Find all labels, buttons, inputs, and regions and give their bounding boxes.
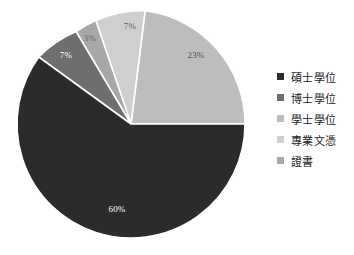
pie-svg: 23% 7% 3% 7% 60%	[0, 0, 258, 255]
pie-chart-figure: 23% 7% 3% 7% 60% 碩士學位 博士學位 學士學位 專業文憑 證書	[0, 0, 354, 255]
slice-label-doctorate: 7%	[60, 50, 73, 60]
legend-item-master[interactable]: 碩士學位	[277, 66, 354, 87]
legend-item-certificate[interactable]: 證書	[277, 150, 354, 171]
legend-swatch-icon	[277, 115, 284, 122]
legend-swatch-icon	[277, 136, 284, 143]
slice-label-certificate: 3%	[84, 33, 97, 43]
legend-item-label: 碩士學位	[291, 69, 337, 85]
slice-label-master: 60%	[108, 204, 125, 214]
legend-swatch-icon	[277, 73, 284, 80]
legend-item-label: 證書	[291, 153, 314, 169]
legend-item-label: 學士學位	[291, 111, 337, 127]
legend-item-diploma[interactable]: 專業文憑	[277, 129, 354, 150]
pie-plot-area: 23% 7% 3% 7% 60%	[0, 0, 258, 255]
legend-item-bachelor[interactable]: 學士學位	[277, 108, 354, 129]
slice-label-diploma: 7%	[124, 21, 137, 31]
legend-item-doctorate[interactable]: 博士學位	[277, 87, 354, 108]
legend: 碩士學位 博士學位 學士學位 專業文憑 證書	[277, 66, 354, 171]
legend-item-label: 專業文憑	[291, 132, 337, 148]
legend-item-label: 博士學位	[291, 90, 337, 106]
pie-slice-bachelor[interactable]	[131, 11, 245, 124]
slice-label-bachelor: 23%	[187, 50, 204, 60]
legend-swatch-icon	[277, 157, 284, 164]
legend-swatch-icon	[277, 94, 284, 101]
